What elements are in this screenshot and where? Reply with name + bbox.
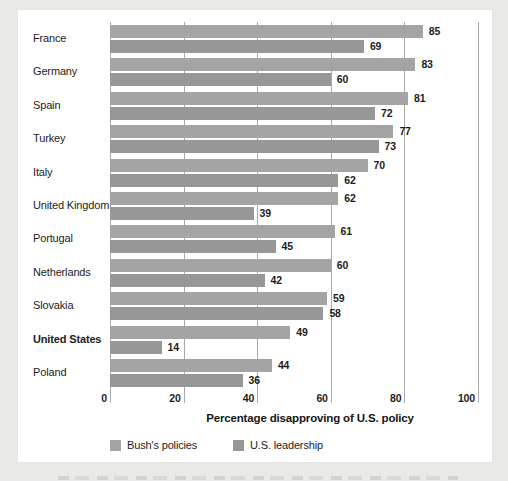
bar-bush-policies bbox=[110, 292, 327, 305]
category-label: Portugal bbox=[33, 224, 111, 252]
value-label: 49 bbox=[296, 327, 307, 338]
gridline-60 bbox=[331, 22, 332, 403]
value-label: 60 bbox=[337, 260, 348, 271]
bar-bush-policies bbox=[110, 225, 335, 238]
value-label: 73 bbox=[385, 141, 396, 152]
bar-bush-policies bbox=[110, 159, 368, 172]
category-label: United States bbox=[33, 325, 111, 353]
value-label: 72 bbox=[381, 108, 392, 119]
category-label: France bbox=[33, 24, 111, 52]
bar-bush-policies bbox=[110, 259, 331, 272]
bar-us-leadership bbox=[110, 140, 379, 153]
value-label: 81 bbox=[414, 93, 425, 104]
value-label: 60 bbox=[337, 74, 348, 85]
x-tick-label-80: 80 bbox=[364, 393, 401, 404]
legend-item-bush-policies: Bush's policies bbox=[110, 439, 197, 451]
bar-us-leadership bbox=[110, 40, 364, 53]
value-label: 42 bbox=[271, 275, 282, 286]
x-tick-label-0: 0 bbox=[70, 393, 107, 404]
legend-label-us-leadership: U.S. leadership bbox=[250, 439, 323, 451]
legend-swatch-us-leadership-icon bbox=[233, 440, 244, 451]
x-axis-label: Percentage disapproving of U.S. policy bbox=[126, 412, 494, 424]
page-background: 8569836081727773706262396145604259584914… bbox=[0, 0, 508, 481]
category-label: Italy bbox=[33, 158, 111, 186]
bar-us-leadership bbox=[110, 374, 243, 387]
value-label: 44 bbox=[278, 360, 289, 371]
chart-panel: 8569836081727773706262396145604259584914… bbox=[18, 10, 492, 462]
bar-us-leadership bbox=[110, 240, 276, 253]
value-label: 85 bbox=[429, 26, 440, 37]
x-tick-label-100: 100 bbox=[438, 393, 475, 404]
bar-us-leadership bbox=[110, 274, 265, 287]
category-label: Turkey bbox=[33, 124, 111, 152]
value-label: 36 bbox=[249, 375, 260, 386]
bar-bush-policies bbox=[110, 25, 423, 38]
category-label: Poland bbox=[33, 358, 111, 386]
value-label: 77 bbox=[399, 126, 410, 137]
legend-item-us-leadership: U.S. leadership bbox=[233, 439, 323, 451]
x-tick-label-20: 20 bbox=[144, 393, 181, 404]
value-label: 62 bbox=[344, 175, 355, 186]
value-label: 59 bbox=[333, 293, 344, 304]
legend-label-bush-policies: Bush's policies bbox=[127, 439, 197, 451]
legend-swatch-bush-policies-icon bbox=[110, 440, 121, 451]
value-label: 14 bbox=[168, 342, 179, 353]
bar-us-leadership bbox=[110, 73, 331, 86]
value-label: 69 bbox=[370, 41, 381, 52]
cutoff-caption-fragment bbox=[58, 476, 458, 480]
bar-bush-policies bbox=[110, 326, 290, 339]
bar-us-leadership bbox=[110, 174, 338, 187]
x-tick-label-40: 40 bbox=[217, 393, 254, 404]
category-label: Netherlands bbox=[33, 258, 111, 286]
gridline-80 bbox=[404, 22, 405, 403]
bar-us-leadership bbox=[110, 207, 254, 220]
x-tick-label-60: 60 bbox=[291, 393, 328, 404]
value-label: 83 bbox=[421, 59, 432, 70]
value-label: 45 bbox=[282, 241, 293, 252]
category-label: Slovakia bbox=[33, 291, 111, 319]
category-label: United Kingdom bbox=[33, 191, 111, 219]
bar-bush-policies bbox=[110, 192, 338, 205]
value-label: 70 bbox=[374, 160, 385, 171]
value-label: 61 bbox=[341, 226, 352, 237]
bar-bush-policies bbox=[110, 359, 272, 372]
category-label: Germany bbox=[33, 57, 111, 85]
bar-us-leadership bbox=[110, 341, 162, 354]
value-label: 58 bbox=[329, 308, 340, 319]
bar-bush-policies bbox=[110, 125, 393, 138]
bar-us-leadership bbox=[110, 307, 323, 320]
category-label: Spain bbox=[33, 91, 111, 119]
value-label: 62 bbox=[344, 193, 355, 204]
bar-bush-policies bbox=[110, 58, 415, 71]
bar-bush-policies bbox=[110, 92, 408, 105]
gridline-100 bbox=[478, 22, 479, 403]
value-label: 39 bbox=[260, 208, 271, 219]
bar-us-leadership bbox=[110, 107, 375, 120]
